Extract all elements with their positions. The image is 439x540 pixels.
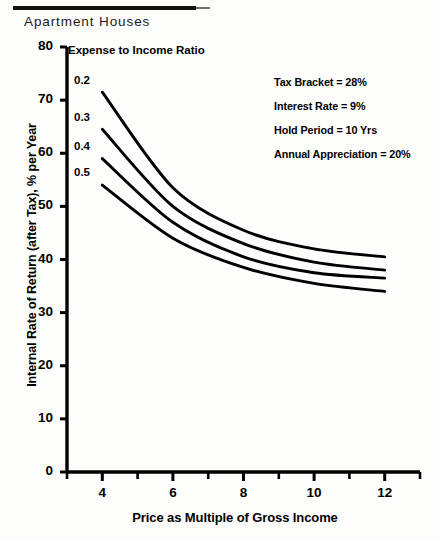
series-label-0.3: 0.3	[74, 111, 90, 123]
annotation-line: Hold Period = 10 Yrs	[274, 124, 377, 136]
x-axis-tick-label: 4	[82, 485, 122, 500]
y-axis-tick-label: 40	[13, 251, 53, 266]
annotation-line: Interest Rate = 9%	[274, 100, 366, 112]
x-axis-tick-label: 6	[153, 485, 193, 500]
y-axis-tick-label: 0	[13, 463, 53, 478]
y-axis-tick-label: 50	[13, 197, 53, 212]
y-axis-tick-label: 10	[13, 410, 53, 425]
x-axis-title: Price as Multiple of Gross Income	[60, 510, 410, 525]
page-canvas: Apartment Houses Internal Rate of Return…	[0, 0, 439, 540]
series-label-0.5: 0.5	[74, 166, 90, 178]
series-label-0.2: 0.2	[74, 74, 90, 86]
series-line-0.2	[102, 92, 384, 257]
annotation-line: Annual Appreciation = 20%	[274, 148, 411, 160]
chart-series-lines	[102, 92, 384, 291]
chart-figure: Internal Rate of Return (after Tax), % p…	[0, 0, 439, 540]
y-axis-tick-label: 80	[13, 38, 53, 53]
legend-title: Expense to Income Ratio	[68, 44, 205, 56]
annotation-line: Tax Bracket = 28%	[274, 76, 367, 88]
y-axis-tick-label: 70	[13, 91, 53, 106]
y-axis-tick-label: 60	[13, 144, 53, 159]
chart-plot-area	[0, 0, 439, 540]
x-axis-tick-label: 10	[294, 485, 334, 500]
x-axis-tick-label: 12	[365, 485, 405, 500]
series-label-0.4: 0.4	[74, 140, 90, 152]
x-axis-tick-label: 8	[224, 485, 264, 500]
y-axis-tick-label: 20	[13, 357, 53, 372]
y-axis-tick-label: 30	[13, 304, 53, 319]
